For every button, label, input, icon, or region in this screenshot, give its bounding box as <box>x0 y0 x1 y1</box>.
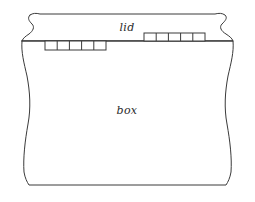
right-joint-frame <box>144 33 205 41</box>
right-finger-joint <box>144 33 205 41</box>
left-finger-joint <box>45 41 106 50</box>
left-joint-frame <box>45 41 106 50</box>
lid-label: lid <box>120 21 135 34</box>
diagram-canvas: lid box <box>0 0 255 202</box>
box-lid-diagram: lid box <box>0 0 255 202</box>
box-label: box <box>117 104 138 117</box>
